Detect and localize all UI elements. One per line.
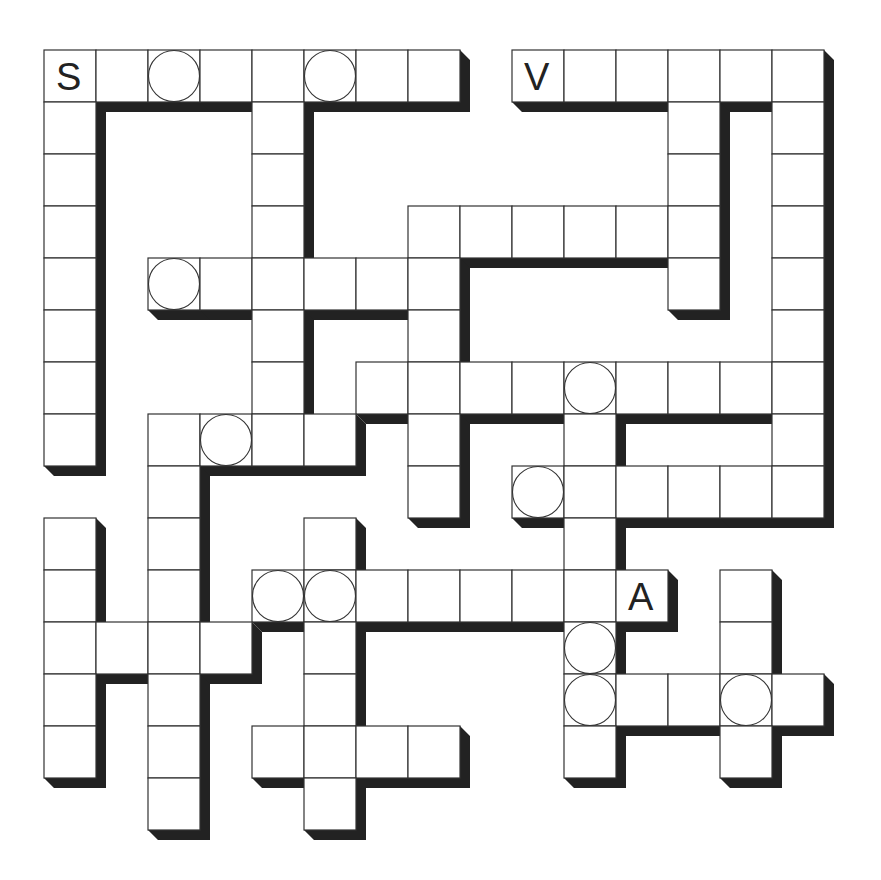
grid-cell[interactable] xyxy=(720,50,772,102)
grid-cell[interactable] xyxy=(668,466,720,518)
grid-cell[interactable] xyxy=(44,518,96,570)
cell-box[interactable] xyxy=(668,154,720,206)
cell-box[interactable] xyxy=(356,726,408,778)
cell-box[interactable] xyxy=(408,466,460,518)
cell-box[interactable] xyxy=(668,50,720,102)
grid-cell[interactable] xyxy=(44,570,96,622)
grid-cell[interactable] xyxy=(304,258,356,310)
grid-cell[interactable] xyxy=(148,778,200,830)
grid-cell[interactable] xyxy=(200,50,252,102)
grid-cell[interactable] xyxy=(44,310,96,362)
grid-cell[interactable] xyxy=(148,414,200,466)
cell-box[interactable] xyxy=(44,102,96,154)
cell-box[interactable] xyxy=(772,414,824,466)
cell-box[interactable] xyxy=(200,258,252,310)
grid-cell[interactable] xyxy=(564,570,616,622)
cell-box[interactable] xyxy=(564,466,616,518)
cell-box[interactable] xyxy=(460,206,512,258)
cell-box[interactable] xyxy=(408,726,460,778)
grid-cell[interactable] xyxy=(408,206,460,258)
grid-cell[interactable] xyxy=(304,414,356,466)
cell-box[interactable] xyxy=(408,50,460,102)
grid-cell[interactable] xyxy=(408,258,460,310)
cell-box[interactable] xyxy=(720,726,772,778)
cell-box[interactable] xyxy=(304,778,356,830)
cell-box[interactable] xyxy=(564,518,616,570)
grid-cell[interactable] xyxy=(252,570,304,622)
cell-box[interactable] xyxy=(252,206,304,258)
grid-cell[interactable] xyxy=(512,206,564,258)
grid-cell[interactable] xyxy=(564,362,616,414)
cell-box[interactable] xyxy=(772,674,824,726)
cell-box[interactable] xyxy=(44,310,96,362)
cell-box[interactable] xyxy=(304,258,356,310)
grid-cell[interactable] xyxy=(772,206,824,258)
grid-cell[interactable] xyxy=(252,258,304,310)
cell-box[interactable] xyxy=(252,258,304,310)
grid-cell[interactable] xyxy=(252,154,304,206)
cell-box[interactable] xyxy=(668,466,720,518)
cell-box[interactable] xyxy=(44,154,96,206)
cell-box[interactable] xyxy=(564,726,616,778)
cell-box[interactable] xyxy=(720,622,772,674)
grid-cell[interactable] xyxy=(252,362,304,414)
grid-cell[interactable] xyxy=(720,570,772,622)
grid-cell[interactable] xyxy=(148,622,200,674)
cell-box[interactable] xyxy=(44,570,96,622)
grid-cell[interactable] xyxy=(200,622,252,674)
grid-cell[interactable] xyxy=(304,518,356,570)
grid-cell[interactable] xyxy=(668,102,720,154)
grid-cell[interactable] xyxy=(252,310,304,362)
cell-box[interactable] xyxy=(252,50,304,102)
cell-box[interactable] xyxy=(304,622,356,674)
cell-box[interactable] xyxy=(772,206,824,258)
grid-cell[interactable] xyxy=(668,674,720,726)
cell-box[interactable] xyxy=(772,154,824,206)
grid-cell[interactable] xyxy=(252,414,304,466)
cell-box[interactable] xyxy=(616,466,668,518)
grid-cell[interactable] xyxy=(148,674,200,726)
grid-cell[interactable] xyxy=(772,50,824,102)
cell-box[interactable] xyxy=(408,206,460,258)
cell-box[interactable] xyxy=(616,206,668,258)
grid-cell[interactable] xyxy=(616,674,668,726)
cell-box[interactable] xyxy=(44,674,96,726)
grid-cell[interactable] xyxy=(96,622,148,674)
cell-box[interactable] xyxy=(772,310,824,362)
grid-cell[interactable] xyxy=(772,310,824,362)
cell-box[interactable] xyxy=(304,674,356,726)
grid-cell[interactable] xyxy=(720,726,772,778)
cell-box[interactable] xyxy=(616,50,668,102)
cell-box[interactable] xyxy=(44,258,96,310)
grid-cell[interactable] xyxy=(252,726,304,778)
cell-box[interactable] xyxy=(720,466,772,518)
grid-cell[interactable] xyxy=(304,726,356,778)
cell-box[interactable] xyxy=(356,258,408,310)
grid-cell[interactable] xyxy=(772,102,824,154)
cell-box[interactable] xyxy=(512,570,564,622)
cell-box[interactable] xyxy=(720,50,772,102)
cell-box[interactable] xyxy=(408,414,460,466)
cell-box[interactable] xyxy=(408,570,460,622)
grid-cell[interactable] xyxy=(668,154,720,206)
grid-cell[interactable] xyxy=(720,674,772,726)
grid-cell[interactable] xyxy=(564,206,616,258)
cell-box[interactable] xyxy=(304,726,356,778)
grid-cell[interactable] xyxy=(200,258,252,310)
grid-cell[interactable] xyxy=(564,466,616,518)
grid-cell[interactable] xyxy=(356,50,408,102)
grid-cell[interactable] xyxy=(44,362,96,414)
cell-box[interactable] xyxy=(148,466,200,518)
grid-cell[interactable] xyxy=(44,206,96,258)
grid-cell[interactable] xyxy=(148,258,200,310)
cell-box[interactable] xyxy=(252,154,304,206)
cell-box[interactable] xyxy=(252,310,304,362)
grid-cell[interactable] xyxy=(564,726,616,778)
cell-box[interactable] xyxy=(772,258,824,310)
grid-cell[interactable] xyxy=(720,362,772,414)
cell-box[interactable] xyxy=(356,50,408,102)
grid-cell[interactable] xyxy=(148,466,200,518)
cell-box[interactable] xyxy=(356,362,408,414)
cell-box[interactable] xyxy=(668,206,720,258)
grid-cell[interactable] xyxy=(148,570,200,622)
